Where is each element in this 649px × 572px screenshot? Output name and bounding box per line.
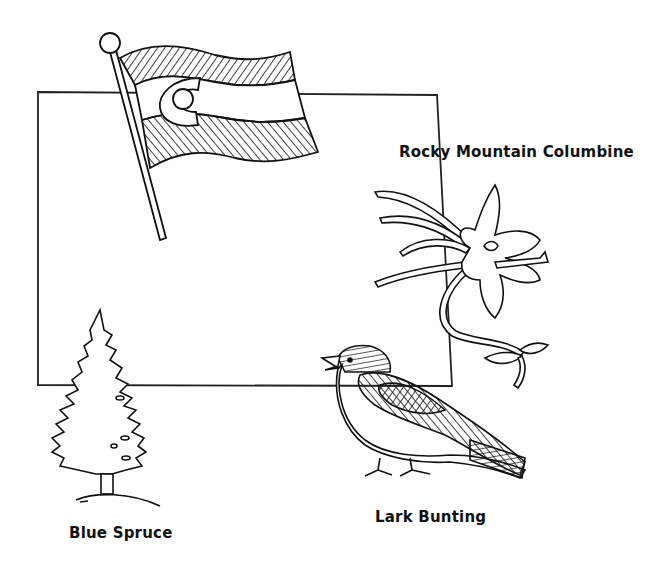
lark-bunting-bird-icon bbox=[322, 346, 525, 479]
spruce-tree-icon bbox=[52, 310, 160, 506]
lark-bunting-label: Lark Bunting bbox=[375, 508, 486, 526]
columbine-flower-icon bbox=[375, 185, 548, 388]
flag-icon bbox=[100, 33, 318, 240]
illustration-canvas bbox=[0, 0, 649, 572]
columbine-label: Rocky Mountain Columbine bbox=[399, 143, 634, 161]
blue-spruce-label: Blue Spruce bbox=[69, 524, 173, 542]
coloring-page: Rocky Mountain Columbine Blue Spruce Lar… bbox=[0, 0, 649, 572]
